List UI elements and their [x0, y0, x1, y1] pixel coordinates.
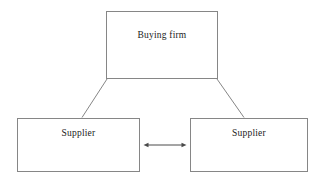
node-supplier-left-label: Supplier	[18, 128, 139, 138]
connector-buying-firm-to-supplier-left	[82, 79, 107, 118]
node-buying-firm[interactable]: Buying firm	[106, 11, 218, 79]
arrowhead-right-icon	[182, 143, 187, 147]
node-supplier-right-label: Supplier	[191, 128, 307, 138]
diagram-canvas: Buying firm Supplier Supplier	[0, 0, 319, 184]
node-supplier-left[interactable]: Supplier	[17, 118, 140, 172]
node-buying-firm-label: Buying firm	[107, 30, 217, 40]
arrowhead-left-icon	[144, 143, 149, 147]
node-supplier-right[interactable]: Supplier	[190, 118, 308, 172]
connector-buying-firm-to-supplier-right	[217, 79, 244, 118]
